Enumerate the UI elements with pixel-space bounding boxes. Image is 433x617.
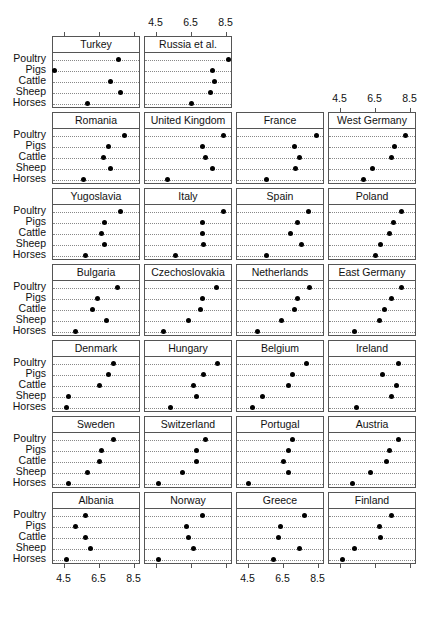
data-point: [403, 133, 408, 138]
data-point: [292, 144, 297, 149]
data-point: [384, 459, 389, 464]
dot-guide-line: [329, 527, 415, 528]
x-tick-mark: [191, 564, 192, 568]
data-point: [73, 524, 78, 529]
data-point: [391, 220, 396, 225]
dot-guide-line: [329, 516, 415, 517]
dot-guide-line: [145, 462, 231, 463]
data-point: [85, 101, 90, 106]
dot-guide-line: [237, 147, 323, 148]
data-point: [387, 448, 392, 453]
data-point: [352, 546, 357, 551]
dot-guide-line: [145, 516, 231, 517]
dot-guide-line: [329, 386, 415, 387]
data-point: [314, 133, 319, 138]
x-tick-mark: [156, 32, 157, 36]
data-point: [221, 209, 226, 214]
panel-strip-title: Spain: [237, 189, 323, 205]
data-point: [354, 405, 359, 410]
dot-guide-line: [237, 223, 323, 224]
panel-strip-title: Hungary: [145, 341, 231, 357]
panel-strip-title: Czechoslovakia: [145, 265, 231, 281]
data-point: [200, 513, 205, 518]
data-point: [210, 68, 215, 73]
x-tick-mark: [64, 32, 65, 36]
dot-guide-line: [237, 299, 323, 300]
data-point: [279, 318, 284, 323]
x-tick-mark: [99, 32, 100, 36]
dot-guide-line: [145, 104, 231, 105]
dot-guide-line: [53, 245, 139, 246]
x-tick-mark: [375, 564, 376, 568]
x-tick-mark: [340, 564, 341, 568]
data-point: [201, 242, 206, 247]
panel-turkey: Turkey: [52, 36, 140, 108]
data-point: [97, 383, 102, 388]
data-point: [380, 372, 385, 377]
panel-norway: Norway: [144, 492, 232, 564]
dot-guide-line: [329, 321, 415, 322]
dot-guide-line: [53, 180, 139, 181]
dot-guide-line: [145, 397, 231, 398]
panel-yugoslavia: Yugoslavia: [52, 188, 140, 260]
panel-strip-title: France: [237, 113, 323, 129]
data-point: [370, 166, 375, 171]
data-point: [161, 329, 166, 334]
dot-guide-line: [237, 310, 323, 311]
dot-guide-line: [329, 158, 415, 159]
data-point: [200, 296, 205, 301]
data-point: [271, 557, 276, 562]
data-point: [81, 177, 86, 182]
panel-strip-title: Russia et al.: [145, 37, 231, 53]
dot-guide-line: [145, 310, 231, 311]
data-point: [85, 470, 90, 475]
dot-guide-line: [53, 527, 139, 528]
panel-strip-title: Netherlands: [237, 265, 323, 281]
data-point: [104, 318, 109, 323]
panel-strip-title: Ireland: [329, 341, 415, 357]
dot-guide-line: [53, 234, 139, 235]
y-axis-label: Horses: [0, 401, 46, 412]
data-point: [83, 535, 88, 540]
dot-guide-line: [145, 223, 231, 224]
panel-italy: Italy: [144, 188, 232, 260]
panel-united-kingdom: United Kingdom: [144, 112, 232, 184]
data-point: [194, 394, 199, 399]
dot-guide-line: [145, 440, 231, 441]
dot-guide-line: [237, 397, 323, 398]
panel-sweden: Sweden: [52, 416, 140, 488]
dot-guide-line: [145, 408, 231, 409]
data-point: [307, 285, 312, 290]
data-point: [377, 524, 382, 529]
panel-strip-title: Portugal: [237, 417, 323, 433]
dot-guide-line: [145, 332, 231, 333]
panel-greece: Greece: [236, 492, 324, 564]
dot-guide-line: [329, 408, 415, 409]
data-point: [97, 459, 102, 464]
x-tick-label: 4.5: [144, 16, 168, 28]
data-point: [83, 253, 88, 258]
data-point: [399, 209, 404, 214]
panel-strip-title: Bulgaria: [53, 265, 139, 281]
data-point: [200, 220, 205, 225]
dot-guide-line: [237, 180, 323, 181]
data-point: [168, 405, 173, 410]
y-axis-label: Horses: [0, 97, 46, 108]
data-point: [200, 231, 205, 236]
y-axis-label: Horses: [0, 173, 46, 184]
dot-guide-line: [237, 549, 323, 550]
data-point: [246, 481, 251, 486]
panel-denmark: Denmark: [52, 340, 140, 412]
dot-guide-line: [53, 288, 139, 289]
dot-guide-line: [329, 484, 415, 485]
dot-guide-line: [237, 256, 323, 257]
dot-guide-line: [145, 245, 231, 246]
data-point: [255, 329, 260, 334]
data-point: [290, 372, 295, 377]
panel-portugal: Portugal: [236, 416, 324, 488]
data-point: [116, 57, 121, 62]
x-tick-mark: [226, 564, 227, 568]
dot-guide-line: [329, 256, 415, 257]
panel-strip-title: West Germany: [329, 113, 415, 129]
dot-guide-line: [53, 440, 139, 441]
